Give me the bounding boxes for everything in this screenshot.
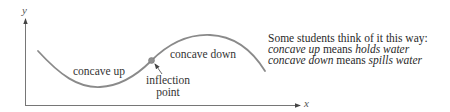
inflection-label-line2: point — [145, 86, 191, 98]
note-connector: means — [333, 54, 368, 66]
y-axis-label: y — [22, 5, 27, 16]
inflection-label-line1: inflection — [145, 74, 191, 86]
note-meaning-spills-water: spills water — [369, 54, 422, 66]
note-term-concave-down: concave down — [268, 54, 333, 66]
concave-down-label: concave down — [170, 49, 236, 61]
note-connector: means — [320, 43, 355, 55]
note-term-concave-up: concave up — [268, 43, 320, 55]
note-line-concave-down: concave down means spills water — [268, 55, 428, 66]
inflection-pointer-arrow — [155, 64, 162, 74]
inflection-point-marker — [149, 58, 155, 64]
note-meaning-holds-water: holds water — [355, 43, 409, 55]
x-axis-label: x — [304, 98, 309, 109]
inflection-point-label: inflection point — [145, 74, 191, 98]
mnemonic-note: Some students think of it this way: conc… — [268, 33, 428, 67]
concave-up-label: concave up — [73, 66, 125, 78]
